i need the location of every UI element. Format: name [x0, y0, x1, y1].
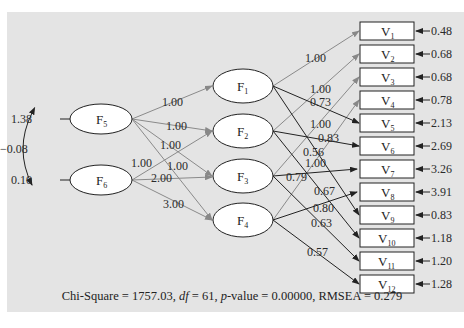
- error-V2: 0.68: [431, 47, 452, 61]
- factor-F1: F1: [213, 69, 273, 103]
- error-V3: 0.68: [431, 70, 452, 84]
- variance-F6: 0.10: [11, 173, 32, 187]
- error-V9: 0.83: [431, 208, 452, 222]
- path-label-F5-F2: 1.00: [166, 119, 187, 133]
- factor-F2: F2: [213, 114, 273, 148]
- observed-V2: V2 0.68: [360, 45, 452, 64]
- observed-variables: V1 0.48 V2 0.68 V3 0.68 V4 0.78 V5 2.13: [360, 22, 452, 294]
- error-V1: 0.48: [431, 24, 452, 38]
- observed-V5: V5 2.13: [360, 114, 452, 133]
- factor-F4: F4: [213, 203, 273, 237]
- path-label-F5-F1: 1.00: [162, 95, 183, 109]
- observed-V6: V6 2.69: [360, 137, 452, 156]
- path-label-F6-F2: 1.00: [131, 156, 152, 170]
- factor-F6: F6: [70, 165, 132, 195]
- loading-label-F3-V7: 0.79: [286, 170, 307, 184]
- factor-F5: F5: [70, 104, 132, 134]
- loading-label-F4-V12: 0.57: [307, 245, 328, 259]
- loading-label-F4-V8: 0.80: [313, 201, 334, 215]
- path-label-F6-F4: 3.00: [163, 197, 184, 211]
- error-V4: 0.78: [431, 93, 452, 107]
- observed-V1: V1 0.48: [360, 22, 452, 41]
- loading-label-F1-V9: 0.67: [314, 184, 335, 198]
- loading-label-F3-V11: 1.00: [305, 156, 326, 170]
- error-V8: 3.91: [431, 185, 452, 199]
- sem-path-diagram: F5 F6 F1 F2 F3 F4 1.38 0.10 −0.08 1.00 1…: [0, 0, 464, 328]
- observed-V4: V4 0.78: [360, 91, 452, 110]
- observed-V8: V8 3.91: [360, 183, 452, 202]
- observed-V9: V9 0.83: [360, 206, 452, 225]
- error-V7: 3.26: [431, 162, 452, 176]
- observed-V7: V7 3.26: [360, 160, 452, 179]
- error-V11: 1.20: [431, 254, 452, 268]
- variance-F5: 1.38: [11, 112, 32, 126]
- fit-statistics: Chi-Square = 1757.03, df = 61, p-value =…: [0, 289, 464, 304]
- observed-V3: V3 0.68: [360, 68, 452, 87]
- loading-label-F2-V6: 0.83: [318, 131, 339, 145]
- loading-label-F1-V5: 0.73: [310, 95, 331, 109]
- error-V5: 2.13: [431, 116, 452, 130]
- loading-label-F2-V10: 0.63: [311, 216, 332, 230]
- error-V6: 2.69: [431, 139, 452, 153]
- covariance-value: −0.08: [0, 142, 28, 156]
- loading-label-F1-V1: 1.00: [305, 51, 326, 65]
- loading-label-F3-V3: 1.00: [310, 117, 331, 131]
- error-V10: 1.18: [431, 231, 452, 245]
- loading-label-F2-V2: 1.00: [310, 82, 331, 96]
- path-label-F6-F3: 2.00: [151, 171, 172, 185]
- observed-V10: V10 1.18: [360, 229, 452, 248]
- observed-V11: V11 1.20: [360, 252, 452, 271]
- path-label-F5-F3: 1.00: [160, 138, 181, 152]
- factor-F3: F3: [213, 159, 273, 193]
